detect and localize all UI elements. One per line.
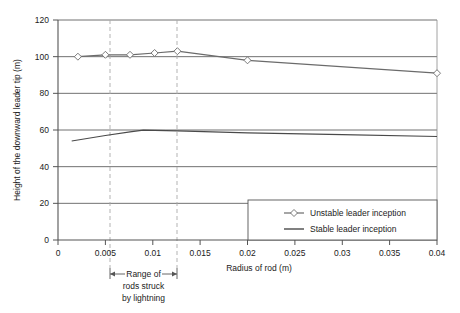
arrow-left-icon [110,272,115,277]
y-tick-label-60: 60 [40,125,50,135]
legend-box [248,200,437,240]
x-tick-label-0035: 0.035 [379,248,401,258]
y-tick-label-100: 100 [35,52,49,62]
chart-legend: Unstable leader inception Stable leader … [248,200,437,240]
x-tick-label-0025: 0.025 [284,248,306,258]
y-tick-label-40: 40 [40,162,50,172]
y-axis-tick-labels: 120 100 80 60 40 20 0 [35,15,49,245]
x-tick-label-002: 0.02 [239,248,256,258]
x-tick-label-0015: 0.015 [189,248,211,258]
chart-figure: 120 100 80 60 40 20 0 0 0.005 0.01 0.015 [0,0,460,313]
x-tick-label-001: 0.01 [145,248,162,258]
x-axis-ticks [58,240,437,245]
x-tick-label-004: 0.04 [429,248,446,258]
x-tick-label-003: 0.03 [334,248,351,258]
arrow-right-icon [172,272,177,277]
y-axis-title: Height of the downward leader tip (m) [12,59,22,201]
x-axis-tick-labels: 0 0.005 0.01 0.015 0.02 0.025 0.03 0.035… [56,248,446,258]
y-tick-label-0: 0 [44,235,49,245]
y-tick-label-80: 80 [40,88,50,98]
y-tick-label-120: 120 [35,15,49,25]
range-annotation-line3: by lightning [122,293,165,303]
range-annotation-line1: Range of [126,269,161,279]
y-tick-label-20: 20 [40,198,50,208]
range-annotation: Range of rods struck by lightning [110,268,177,303]
x-tick-label-0005: 0.005 [95,248,117,258]
range-annotation-line2: rods struck [123,281,165,291]
line-chart: 120 100 80 60 40 20 0 0 0.005 0.01 0.015 [0,0,460,313]
x-tick-label-0: 0 [56,248,61,258]
x-axis-title: Radius of rod (m) [226,263,292,273]
legend-label-stable: Stable leader inception [310,224,397,234]
y-axis-ticks [53,20,58,240]
legend-label-unstable: Unstable leader inception [310,208,406,218]
